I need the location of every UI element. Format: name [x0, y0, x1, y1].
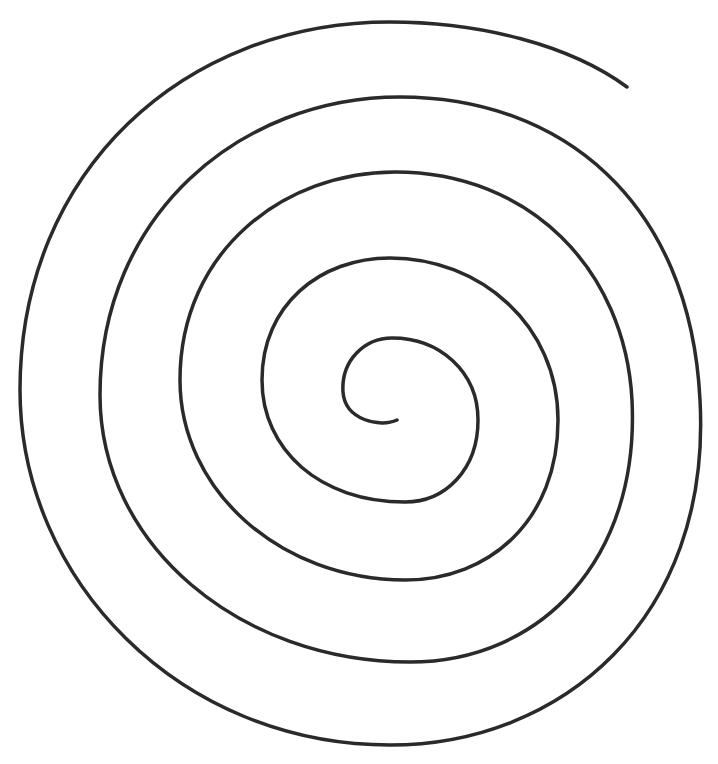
spiral-stroke — [20, 22, 701, 745]
spiral-drawing — [0, 0, 718, 764]
